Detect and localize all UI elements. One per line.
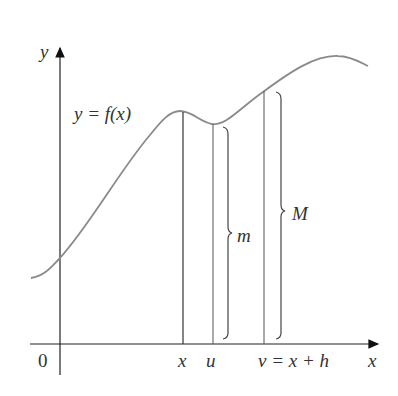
- origin-label: 0: [38, 351, 48, 370]
- x-axis-label: x: [368, 351, 376, 370]
- marker-x-label: x: [178, 351, 186, 370]
- marker-u-label: u: [206, 351, 216, 370]
- curve-label: y = f(x): [74, 104, 131, 123]
- bracket-M: [276, 92, 285, 339]
- bracket-m-label: m: [237, 226, 251, 245]
- bracket-M-label: M: [292, 204, 308, 223]
- function-curve: [31, 56, 368, 278]
- bracket-m: [223, 127, 232, 339]
- figure: y y = f(x) 0 x u v = x + h x m M: [0, 0, 398, 396]
- y-axis-label: y: [40, 42, 48, 61]
- marker-v-label: v = x + h: [258, 351, 329, 370]
- diagram-canvas: [0, 0, 398, 396]
